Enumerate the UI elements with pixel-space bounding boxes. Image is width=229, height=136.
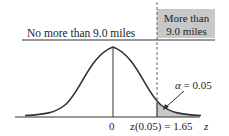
- right-region-label: More than 9.0 miles: [158, 12, 215, 37]
- alpha-annotation: α = 0.05: [175, 80, 212, 91]
- right-region-label-line1: More than: [164, 12, 210, 24]
- alpha-value: = 0.05: [181, 79, 212, 91]
- left-region-label: No more than 9.0 miles: [27, 28, 135, 40]
- tick-label-zero: 0: [109, 121, 115, 132]
- tick-label-critical-value: z(0.05) = 1.65: [130, 121, 192, 132]
- alpha-arrow: [166, 91, 184, 107]
- normal-distribution-figure: No more than 9.0 miles More than 9.0 mil…: [0, 0, 229, 136]
- right-region-label-line2: 9.0 miles: [166, 25, 206, 37]
- x-axis-label: z: [204, 121, 208, 132]
